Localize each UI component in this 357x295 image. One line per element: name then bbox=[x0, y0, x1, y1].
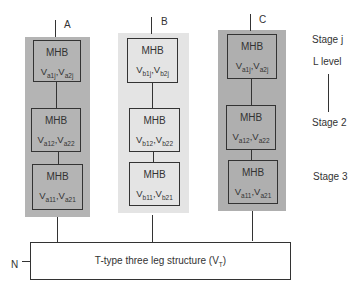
connector-b-1 bbox=[152, 83, 153, 108]
mhb-block-c-stage-3: MHB Va11,Va21 bbox=[228, 160, 278, 204]
block-voltages: Vb1j,Vb2j bbox=[128, 64, 177, 77]
column-c-bottom-wire bbox=[252, 211, 253, 241]
block-title: MHB bbox=[128, 45, 177, 56]
mhb-block-b-stage-j: MHB Vb1j,Vb2j bbox=[127, 38, 178, 83]
block-voltages: Va11,Va21 bbox=[229, 186, 277, 199]
block-title: MHB bbox=[33, 171, 82, 182]
connector-a-1 bbox=[56, 82, 57, 108]
mhb-block-a-stage-3: MHB Va11,Va21 bbox=[32, 164, 83, 210]
block-voltages: Va12,Va22 bbox=[227, 131, 275, 144]
connector-c-1 bbox=[251, 79, 252, 105]
stage-2-label: Stage 2 bbox=[312, 117, 346, 128]
block-voltages: Va1j,Va2j bbox=[228, 60, 276, 73]
stage-j-label: Stage j bbox=[312, 34, 343, 45]
column-b-bottom-wire bbox=[152, 215, 153, 243]
mhb-block-a-stage-j: MHB Va1j,Va2j bbox=[33, 40, 81, 82]
block-title: MHB bbox=[228, 41, 276, 52]
block-voltages: Va12,Va22 bbox=[32, 134, 80, 147]
block-title: MHB bbox=[34, 47, 80, 58]
column-c-label: C bbox=[259, 14, 266, 25]
column-a-top-wire bbox=[55, 20, 56, 37]
connector-a-2 bbox=[58, 152, 59, 164]
neutral-wire bbox=[22, 261, 30, 262]
block-title: MHB bbox=[227, 112, 275, 123]
mhb-block-b-stage-2: MHB Vb12,Vb22 bbox=[129, 108, 180, 152]
block-title: MHB bbox=[130, 115, 179, 126]
neutral-label: N bbox=[11, 259, 18, 270]
column-c-top-wire bbox=[250, 14, 251, 31]
connector-b-2 bbox=[153, 152, 154, 162]
mhb-block-a-stage-2: MHB Va12,Va22 bbox=[31, 108, 81, 152]
connector-c-2 bbox=[251, 150, 252, 160]
column-a-label: A bbox=[64, 19, 71, 30]
mhb-block-c-stage-2: MHB Va12,Va22 bbox=[226, 105, 276, 150]
column-b-label: B bbox=[161, 16, 168, 27]
t-type-structure-label: T-type three leg structure (VT) bbox=[95, 255, 226, 266]
stage-range-line bbox=[328, 74, 329, 112]
block-voltages: Va1j,Va2j bbox=[34, 66, 80, 79]
block-title: MHB bbox=[229, 167, 277, 178]
mhb-block-c-stage-j: MHB Va1j,Va2j bbox=[227, 34, 277, 79]
stage-3-label: Stage 3 bbox=[313, 171, 347, 182]
t-type-structure-box: T-type three leg structure (VT) bbox=[30, 242, 291, 280]
block-voltages: Vb12,Vb22 bbox=[130, 134, 179, 147]
block-voltages: Vb11,Vb21 bbox=[130, 188, 179, 201]
l-level-label: L level bbox=[313, 56, 342, 67]
column-a-bottom-wire bbox=[57, 217, 58, 244]
mhb-block-b-stage-3: MHB Vb11,Vb21 bbox=[129, 162, 180, 206]
block-title: MHB bbox=[130, 169, 179, 180]
column-b-top-wire bbox=[151, 17, 152, 34]
block-title: MHB bbox=[32, 115, 80, 126]
block-voltages: Va11,Va21 bbox=[33, 190, 82, 203]
